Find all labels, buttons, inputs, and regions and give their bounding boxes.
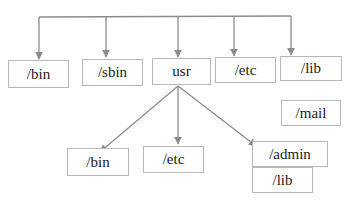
node-label: /sbin	[98, 65, 127, 80]
node-label: /etc	[235, 63, 257, 78]
node-sbin: /sbin	[82, 59, 143, 86]
arrow-usr-to-admin	[178, 86, 256, 146]
node-label: /admin	[269, 147, 311, 162]
node-lib: /lib	[280, 56, 342, 81]
node-bin: /bin	[8, 60, 69, 88]
node-usr-lib: /lib	[252, 167, 313, 193]
node-usr-admin: /admin	[252, 141, 328, 167]
node-label: /etc	[163, 152, 185, 167]
node-usr-bin: /bin	[67, 148, 129, 176]
node-label: /lib	[272, 173, 292, 188]
node-label: /mail	[296, 106, 327, 121]
arrow-usr-to-bin	[100, 86, 178, 152]
root-bus-line	[39, 16, 291, 17]
node-mail: /mail	[281, 100, 341, 126]
node-usr: usr	[152, 58, 211, 85]
node-usr-etc: /etc	[143, 146, 204, 173]
node-etc: /etc	[215, 57, 276, 83]
node-label: /bin	[27, 67, 50, 82]
node-label: /bin	[86, 155, 109, 170]
node-label: usr	[172, 64, 190, 79]
node-label: /lib	[301, 61, 321, 76]
